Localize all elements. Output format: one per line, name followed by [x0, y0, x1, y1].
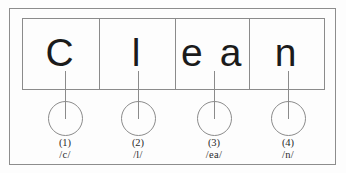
grapheme-letter: n	[275, 33, 300, 75]
grapheme-box-row: C l e a n	[22, 18, 325, 90]
phoneme-circle-4[interactable]	[271, 101, 306, 136]
phoneme-number: (4)	[258, 137, 318, 149]
phoneme-label-1: (1) /c/	[35, 137, 95, 160]
grapheme-letter: C	[46, 33, 77, 75]
phoneme-sound: /l/	[108, 149, 168, 161]
phoneme-label-4: (4) /n/	[258, 137, 318, 160]
grapheme-cell-1[interactable]: C	[23, 19, 100, 89]
grapheme-letter: l	[132, 33, 144, 75]
phoneme-circle-3[interactable]	[197, 101, 232, 136]
phoneme-number: (1)	[35, 137, 95, 149]
phoneme-sound: /n/	[258, 149, 318, 161]
phoneme-label-2: (2) /l/	[108, 137, 168, 160]
phoneme-circle-2[interactable]	[121, 101, 156, 136]
phoneme-number: (3)	[184, 137, 244, 149]
phoneme-sound: /ea/	[184, 149, 244, 161]
grapheme-letter: e a	[181, 33, 245, 75]
phoneme-number: (2)	[108, 137, 168, 149]
phoneme-sound: /c/	[35, 149, 95, 161]
phoneme-circle-1[interactable]	[48, 101, 83, 136]
phoneme-label-3: (3) /ea/	[184, 137, 244, 160]
phoneme-worksheet: C l e a n (1) /c/ (2) /l/ (3) /ea/ (4) /…	[0, 0, 346, 173]
